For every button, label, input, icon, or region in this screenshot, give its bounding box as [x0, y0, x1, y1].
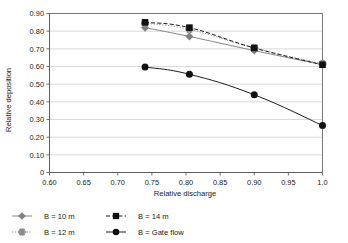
- legend-label: B = Gate flow: [138, 228, 184, 237]
- data-point-marker-square: [142, 19, 149, 26]
- x-tick-label: 0.90: [247, 178, 261, 187]
- relative-deposition-chart: 00.100.200.300.400.500.600.700.800.90 0.…: [0, 0, 348, 243]
- y-tick-label: 0.10: [30, 151, 44, 160]
- data-point-marker-circle: [251, 91, 258, 98]
- legend-label: B = 12 m: [44, 228, 75, 237]
- x-tick-label: 0.60: [42, 178, 56, 187]
- legend-label: B = 10 m: [44, 212, 75, 221]
- legend-item-1[interactable]: B = 12 m: [12, 228, 75, 237]
- x-tick-label: 0.85: [213, 178, 227, 187]
- data-point-marker-square: [113, 213, 119, 219]
- chart-background: [0, 0, 348, 243]
- y-tick-label: 0.60: [30, 62, 44, 71]
- x-tick-label: 0.70: [111, 178, 125, 187]
- x-tick-label: 0.65: [76, 178, 90, 187]
- data-point-marker-square: [319, 61, 326, 68]
- y-axis-title: Relative deposition: [4, 68, 13, 132]
- chart-container: 00.100.200.300.400.500.600.700.800.90 0.…: [0, 0, 348, 243]
- y-tick-label: 0.40: [30, 98, 44, 107]
- data-point-marker-circle: [186, 71, 193, 78]
- y-tick-label: 0.80: [30, 27, 44, 36]
- x-tick-label: 0.75: [145, 178, 159, 187]
- data-point-marker-circle: [142, 64, 149, 71]
- y-tick-label: 0.90: [30, 9, 44, 18]
- data-point-marker-square: [251, 45, 258, 52]
- y-tick-label: 0.70: [30, 45, 44, 54]
- y-tick-label: 0.20: [30, 133, 44, 142]
- data-point-marker-square: [186, 24, 193, 31]
- y-tick-label: 0.30: [30, 115, 44, 124]
- x-axis-title: Relative discharge: [154, 189, 216, 198]
- y-tick-label: 0.50: [30, 80, 44, 89]
- data-point-marker-circle: [319, 122, 326, 129]
- legend-label: B = 14 m: [138, 212, 169, 221]
- x-tick-label: 0.80: [179, 178, 193, 187]
- y-tick-label: 0: [40, 168, 44, 177]
- x-tick-label: 0.95: [281, 178, 295, 187]
- x-tick-label: 1.0: [317, 178, 327, 187]
- data-point-marker-circle: [113, 229, 120, 236]
